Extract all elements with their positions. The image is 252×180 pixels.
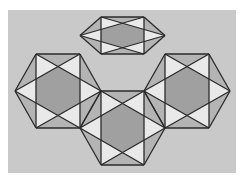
geometric-figure [0, 0, 252, 180]
